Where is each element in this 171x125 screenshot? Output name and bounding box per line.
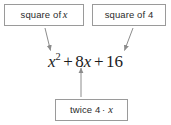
equation-operator-2: +	[91, 52, 106, 71]
arrow-square-of-x-to-x-squared	[45, 28, 51, 51]
equation-term2-coefficient: 8	[75, 52, 84, 71]
callout-label-square-of-4: square of 4	[105, 10, 154, 20]
callout-box-square-of-x: square ofx	[4, 4, 84, 26]
callout-box-twice-4x: twice 4·x	[55, 99, 128, 121]
callout-box-square-of-4: square of 4	[92, 4, 166, 26]
equation-term-8x: 8x	[75, 52, 91, 71]
callout-label-square-of-x-variable: x	[61, 10, 67, 21]
equation-operator-1: +	[61, 52, 76, 71]
arrow-square-of-4-to-16	[125, 28, 134, 51]
equation-term-x-squared: x2	[48, 52, 61, 71]
callout-label-twice-4x-prefix: twice 4	[70, 105, 100, 115]
diagram-canvas: square ofx square of 4 twice 4·x x2+8x+1…	[0, 0, 171, 125]
callout-label-square-of-x-prefix: square of	[21, 10, 62, 20]
equation-term1-exponent: 2	[56, 51, 61, 62]
callout-label-twice-4x-variable: x	[107, 105, 113, 116]
equation-term-16: 16	[106, 52, 123, 71]
equation-term1-base: x	[48, 52, 56, 71]
equation-expression: x2+8x+16	[0, 53, 171, 70]
